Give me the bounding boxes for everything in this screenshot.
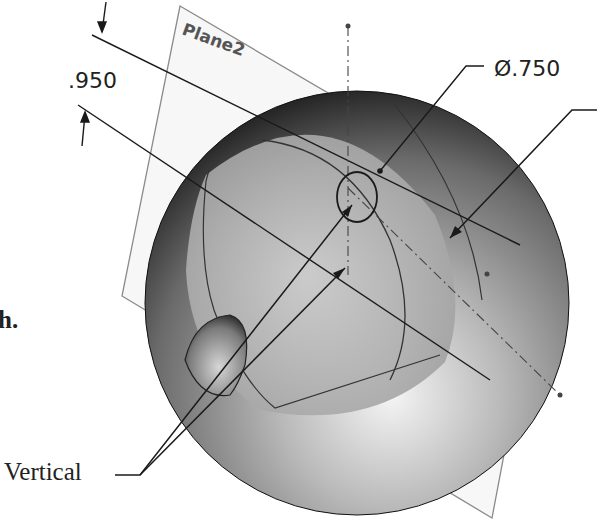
dimension-950-label[interactable]: .950: [68, 68, 117, 93]
sphere-sketch-diagram: .950 Ø.750 Vertical Plane2 h.: [0, 0, 602, 523]
vertical-label: Vertical: [4, 458, 82, 485]
text-fragment: h.: [0, 306, 18, 333]
diameter-label[interactable]: Ø.750: [494, 56, 560, 81]
cad-drawing: .950 Ø.750 Vertical Plane2 h.: [0, 0, 602, 523]
